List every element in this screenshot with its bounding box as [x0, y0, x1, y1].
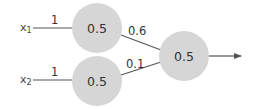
- weight-x1-hidden1: 1: [51, 13, 58, 27]
- weight-hidden1-output: 0.6: [128, 24, 146, 38]
- neural-network-diagram: 0.5 0.5 0.5 x1 x2 1 1 0.6 0.1: [0, 0, 256, 109]
- weight-x2-hidden2: 1: [51, 65, 58, 79]
- weight-hidden2-output: 0.1: [126, 57, 144, 71]
- input-x1-label: x1: [20, 21, 32, 35]
- hidden-node-1-value: 0.5: [87, 21, 107, 36]
- input-x2-label: x2: [20, 73, 32, 87]
- output-node-value: 0.5: [174, 49, 194, 64]
- hidden-node-2-value: 0.5: [87, 74, 107, 89]
